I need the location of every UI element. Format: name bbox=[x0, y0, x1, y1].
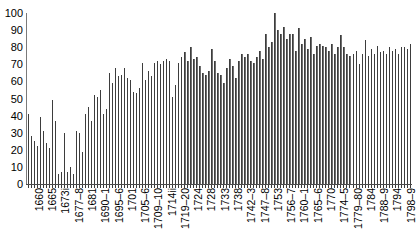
bar bbox=[374, 54, 375, 184]
bar bbox=[94, 95, 95, 184]
bar bbox=[88, 107, 89, 184]
bar bbox=[319, 44, 320, 184]
bar bbox=[325, 47, 326, 184]
x-tick-label: 1660 bbox=[34, 188, 45, 211]
bar bbox=[187, 61, 188, 184]
bar bbox=[241, 54, 242, 184]
bar bbox=[160, 64, 161, 184]
bar bbox=[377, 46, 378, 185]
bar bbox=[322, 46, 323, 185]
bar bbox=[253, 63, 254, 184]
bar bbox=[356, 51, 357, 184]
x-tick-label: 1794 bbox=[392, 188, 403, 211]
bar bbox=[34, 141, 35, 184]
bar bbox=[127, 78, 128, 184]
bar bbox=[73, 174, 74, 184]
y-tick-label: 30 bbox=[11, 127, 23, 138]
bar bbox=[265, 34, 266, 184]
bar bbox=[262, 59, 263, 184]
y-tick-label: 20 bbox=[11, 144, 23, 155]
x-axis: 166016651673i1677–816811690–11695–617011… bbox=[27, 188, 412, 232]
bar bbox=[55, 121, 56, 184]
bar bbox=[250, 61, 251, 184]
bar bbox=[310, 37, 311, 184]
bar bbox=[145, 80, 146, 184]
y-tick-label: 70 bbox=[11, 59, 23, 70]
bar bbox=[85, 114, 86, 184]
bar bbox=[313, 54, 314, 184]
bar bbox=[64, 133, 65, 184]
bar bbox=[82, 152, 83, 184]
bar bbox=[271, 42, 272, 184]
bar bbox=[316, 46, 317, 185]
bar bbox=[277, 30, 278, 184]
x-tick-label: 1788–9 bbox=[379, 188, 390, 223]
bar bbox=[286, 39, 287, 184]
bar bbox=[205, 75, 206, 184]
x-tick-label: 1724 bbox=[193, 188, 204, 211]
bar bbox=[31, 136, 32, 184]
bar bbox=[130, 80, 131, 184]
bar bbox=[268, 47, 269, 184]
x-tick-label: 1709–10 bbox=[153, 188, 164, 229]
bar bbox=[106, 109, 107, 184]
bar bbox=[365, 40, 366, 184]
x-tick-label: 1756–7 bbox=[286, 188, 297, 223]
bar bbox=[392, 51, 393, 184]
bar bbox=[28, 114, 29, 184]
bar bbox=[154, 63, 155, 184]
x-tick-label: 1753 bbox=[273, 188, 284, 211]
bar bbox=[343, 47, 344, 184]
x-tick-label: 1701 bbox=[127, 188, 138, 211]
bar bbox=[112, 83, 113, 184]
bar bbox=[76, 131, 77, 184]
bar bbox=[359, 64, 360, 184]
bar bbox=[340, 35, 341, 184]
y-tick-label: 40 bbox=[11, 110, 23, 121]
bar bbox=[226, 68, 227, 184]
bar bbox=[256, 57, 257, 184]
bar bbox=[407, 49, 408, 184]
bar bbox=[133, 92, 134, 184]
x-tick-label: 1719–20 bbox=[180, 188, 191, 229]
bar bbox=[100, 90, 101, 184]
bar bbox=[115, 68, 116, 184]
bar bbox=[244, 57, 245, 184]
x-tick-label: 1774–5 bbox=[339, 188, 350, 223]
x-tick-label: 1714ii bbox=[167, 188, 178, 216]
bar bbox=[49, 148, 50, 184]
bar bbox=[97, 97, 98, 184]
y-tick-label: 50 bbox=[11, 93, 23, 104]
bar bbox=[259, 51, 260, 184]
bar bbox=[139, 88, 140, 184]
bar bbox=[202, 73, 203, 184]
bar bbox=[40, 117, 41, 184]
bar bbox=[353, 54, 354, 184]
bar bbox=[208, 71, 209, 184]
bar bbox=[238, 61, 239, 184]
bar bbox=[337, 47, 338, 184]
y-tick-label: 80 bbox=[11, 42, 23, 53]
bar bbox=[217, 73, 218, 184]
bar bbox=[368, 56, 369, 184]
bar bbox=[124, 68, 125, 184]
bar bbox=[163, 61, 164, 184]
x-tick-label: 1733 bbox=[220, 188, 231, 211]
bar bbox=[142, 63, 143, 184]
bar bbox=[136, 93, 137, 184]
bar bbox=[79, 133, 80, 184]
bar bbox=[61, 172, 62, 184]
bar bbox=[181, 57, 182, 184]
bar bbox=[220, 75, 221, 184]
x-tick-label: 1784 bbox=[366, 188, 377, 211]
bar bbox=[196, 57, 197, 184]
bar bbox=[37, 146, 38, 184]
bar bbox=[109, 73, 110, 184]
bar bbox=[410, 44, 411, 184]
x-tick-label: 1742–3 bbox=[246, 188, 257, 223]
bar bbox=[304, 39, 305, 184]
bar bbox=[307, 49, 308, 184]
bar bbox=[389, 47, 390, 184]
bar bbox=[280, 34, 281, 184]
